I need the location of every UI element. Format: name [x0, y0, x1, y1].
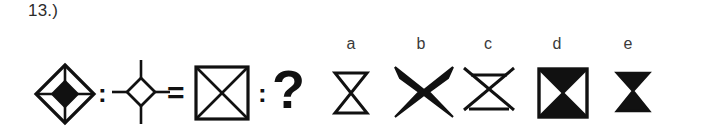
diamond-with-filled-center-icon: [33, 62, 97, 126]
outline-hourglass-icon: [330, 70, 372, 116]
option-figure-b[interactable]: [392, 62, 456, 122]
option-figure-a[interactable]: [330, 70, 372, 116]
option-letter-b: b: [410, 36, 432, 52]
option-letter-a: a: [340, 36, 362, 52]
equals-operator: =: [167, 78, 185, 108]
option-figure-c[interactable]: [460, 64, 518, 118]
stem-figure-c-square-with-diagonals: [193, 64, 251, 122]
ratio-colon-first: :: [98, 80, 107, 106]
option-figure-d[interactable]: [536, 66, 590, 120]
square-with-filled-hourglass-icon: [536, 66, 590, 120]
square-with-diagonals-icon: [193, 64, 251, 122]
unknown-term-question-mark: ?: [272, 62, 305, 116]
small-diamond-with-cross-icon: [110, 58, 172, 126]
filled-hourglass-flared-icon: [392, 62, 456, 122]
outline-hourglass-extended-x-icon: [460, 64, 518, 118]
option-letter-d: d: [546, 36, 568, 52]
stem-figure-a-diamond-with-filled-center: [33, 62, 97, 126]
option-figure-e[interactable]: [613, 70, 653, 114]
option-letter-c: c: [477, 36, 499, 52]
small-filled-hourglass-icon: [613, 70, 653, 114]
item-number-label: 13.): [28, 2, 58, 19]
ratio-colon-second: :: [258, 80, 267, 106]
option-letter-e: e: [617, 36, 639, 52]
stem-figure-b-small-diamond-with-cross: [110, 58, 172, 126]
